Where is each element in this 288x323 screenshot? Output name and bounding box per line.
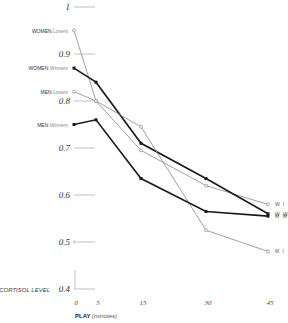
series-start-label: WOMEN Losers (32, 28, 69, 34)
cortisol-line-chart: 10.90.80.70.60.50.4CORTISOL LEVEL0515304… (0, 0, 288, 323)
y-tick-label: 0.4 (59, 284, 71, 294)
series-line (74, 120, 268, 216)
data-point (140, 149, 143, 152)
x-tick-label: 0 (74, 299, 78, 307)
y-tick-label: 0.6 (59, 190, 71, 200)
x-tick-label: 15 (140, 299, 148, 307)
data-point (205, 210, 208, 213)
x-tick-label: 45 (267, 299, 275, 307)
data-point (140, 125, 143, 128)
data-point (73, 67, 76, 70)
series-end-label: M l (275, 248, 285, 254)
series-end-label: M W (275, 213, 288, 219)
series-start-label: WOMEN Winners (29, 65, 69, 71)
data-point (73, 123, 76, 126)
data-point (205, 229, 208, 232)
series-end-label: W l (275, 201, 285, 207)
data-point (73, 29, 76, 32)
x-tick-label: 5 (96, 299, 100, 307)
data-point (95, 118, 98, 121)
data-point (140, 142, 143, 145)
data-point (267, 250, 270, 253)
x-axis-label: PLAY (minutes) (75, 313, 117, 319)
series-start-label: MEN Losers (40, 89, 68, 95)
y-tick-label: 0.7 (59, 143, 71, 153)
y-tick-label: 1 (66, 2, 71, 12)
x-tick-label: 30 (204, 299, 213, 307)
data-point (95, 100, 98, 103)
data-point (267, 215, 270, 218)
data-point (205, 184, 208, 187)
data-point (267, 203, 270, 206)
series-line (74, 92, 268, 252)
y-axis-label: CORTISOL LEVEL (0, 287, 50, 293)
data-point (205, 177, 208, 180)
data-point (95, 81, 98, 84)
series-line (74, 31, 268, 205)
y-tick-label: 0.9 (59, 49, 71, 59)
data-point (73, 90, 76, 93)
y-tick-label: 0.5 (59, 237, 71, 247)
series-start-label: MEN Winners (37, 122, 68, 128)
series-line (74, 68, 268, 214)
y-tick-label: 0.8 (59, 96, 71, 106)
data-point (140, 177, 143, 180)
